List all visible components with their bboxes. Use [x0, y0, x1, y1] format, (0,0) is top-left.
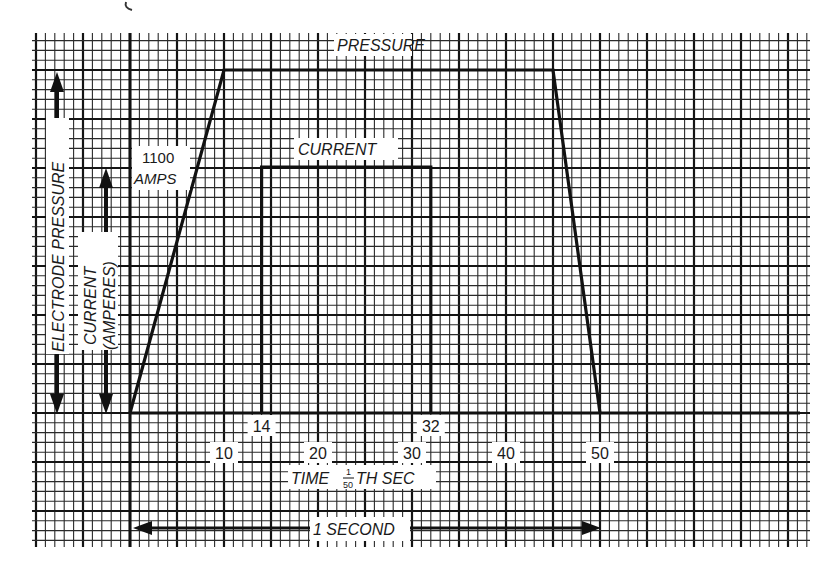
svg-text:1 SECOND: 1 SECOND [313, 521, 395, 538]
cropped-heading-fragment [126, 2, 132, 10]
arrow-down-icon [50, 394, 64, 414]
x-tick-label: 14 [253, 418, 271, 435]
electrode-pressure-axis: ELECTRODE PRESSURE [46, 72, 69, 414]
x-tick-label: 20 [309, 445, 327, 462]
x-tick-label: 32 [422, 418, 440, 435]
svg-text:CURRENT: CURRENT [298, 141, 377, 158]
x-tick-label: 30 [403, 445, 421, 462]
svg-text:1100: 1100 [142, 149, 174, 166]
peak-current-label: 1100 AMPS [132, 146, 190, 190]
x-tick-label: 40 [497, 445, 515, 462]
arrow-right-icon [582, 521, 601, 535]
svg-text:AMPS: AMPS [133, 170, 177, 187]
svg-text:50: 50 [343, 480, 353, 490]
weld-timing-chart: PRESSURE CURRENT 1100 AMPS ELECTRODE PRE… [0, 0, 838, 570]
plot-area [130, 33, 800, 547]
arrow-left-icon [133, 521, 152, 535]
pressure-label: PRESSURE [334, 34, 425, 56]
svg-text:TIME: TIME [291, 470, 330, 487]
svg-text:PRESSURE: PRESSURE [337, 37, 425, 54]
arrow-up-icon [50, 72, 64, 92]
current-label: CURRENT [294, 138, 398, 160]
svg-text:1: 1 [346, 467, 351, 477]
x-tick-label: 10 [215, 445, 233, 462]
time-axis-title: TIME 1 50 TH SEC [288, 465, 436, 490]
electrode-pressure-axis-label: ELECTRODE PRESSURE [50, 161, 67, 352]
x-tick-label: 50 [591, 445, 609, 462]
current-axis-label-line2: (AMPERES) [101, 261, 118, 350]
svg-text:TH SEC: TH SEC [356, 470, 415, 487]
current-axis-label-line1: CURRENT [82, 266, 99, 345]
